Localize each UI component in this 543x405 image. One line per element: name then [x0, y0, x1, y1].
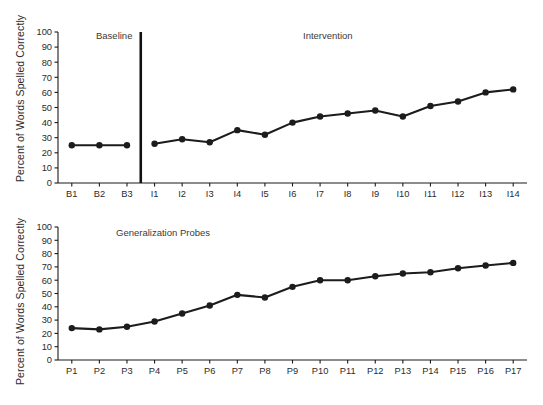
x-tick-label: I12: [452, 189, 465, 199]
x-tick-label: I7: [316, 189, 324, 199]
x-tick-label: I9: [371, 189, 379, 199]
generalization-phase-label: Generalization Probes: [116, 227, 210, 238]
x-tick-label: P7: [232, 366, 243, 376]
data-point: [510, 260, 516, 266]
data-point: [482, 89, 488, 95]
x-tick-label: P5: [176, 366, 187, 376]
x-tick-label: I6: [289, 189, 297, 199]
x-tick-label: I11: [424, 189, 436, 199]
y-tick-label: 0: [47, 178, 52, 188]
y-tick-label: 10: [42, 163, 52, 173]
data-point: [69, 142, 75, 148]
intervention-phase-label: Intervention: [303, 30, 353, 41]
x-tick-label: I8: [344, 189, 352, 199]
plot-area-top: 0102030405060708090100B1B2B3I1I2I3I4I5I6…: [0, 0, 543, 203]
plot-area-bottom: 0102030405060708090100P1P2P3P4P5P6P7P8P9…: [0, 200, 543, 405]
x-tick-label: I3: [206, 189, 214, 199]
y-tick-label: 60: [42, 276, 52, 286]
y-tick-label: 20: [42, 148, 52, 158]
y-axis-title-bottom: Percent of Words Spelled Correctly: [14, 218, 26, 385]
x-tick-label: B1: [66, 189, 77, 199]
x-tick-label: B2: [94, 189, 105, 199]
baseline-phase-label: Baseline: [96, 30, 132, 41]
x-tick-label: P8: [259, 366, 270, 376]
x-tick-label: P15: [450, 366, 467, 376]
x-tick-label: I2: [178, 189, 186, 199]
chart-panel-top: Percent of Words Spelled Correctly Basel…: [0, 0, 543, 203]
y-tick-label: 0: [47, 355, 52, 365]
y-tick-label: 80: [42, 58, 52, 68]
y-tick-label: 30: [42, 315, 52, 325]
data-point: [151, 141, 157, 147]
y-tick-label: 80: [42, 249, 52, 259]
data-point: [400, 113, 406, 119]
data-point: [372, 273, 378, 279]
y-tick-label: 10: [42, 342, 52, 352]
data-point: [234, 292, 240, 298]
data-point: [124, 324, 130, 330]
x-tick-label: B3: [121, 189, 132, 199]
y-tick-label: 70: [42, 73, 52, 83]
data-point: [289, 119, 295, 125]
data-point: [455, 98, 461, 104]
data-point: [179, 310, 185, 316]
x-tick-label: P4: [149, 366, 160, 376]
figure-root: Percent of Words Spelled Correctly Basel…: [0, 0, 543, 405]
y-tick-label: 100: [36, 222, 52, 232]
y-tick-label: 100: [36, 27, 52, 37]
series-line-generalization-probes: [72, 263, 513, 330]
y-tick-label: 60: [42, 88, 52, 98]
x-tick-label: P1: [66, 366, 77, 376]
y-tick-label: 40: [42, 118, 52, 128]
y-tick-label: 30: [42, 133, 52, 143]
x-tick-label: I5: [261, 189, 269, 199]
data-point: [400, 270, 406, 276]
y-tick-label: 70: [42, 262, 52, 272]
x-tick-label: P14: [422, 366, 439, 376]
data-point: [427, 269, 433, 275]
y-tick-label: 90: [42, 42, 52, 52]
x-tick-label: P3: [121, 366, 132, 376]
data-point: [317, 277, 323, 283]
y-tick-label: 40: [42, 302, 52, 312]
data-point: [262, 131, 268, 137]
data-point: [69, 325, 75, 331]
x-tick-label: I4: [233, 189, 241, 199]
data-point: [151, 318, 157, 324]
series-line-intervention: [155, 89, 514, 143]
data-point: [262, 294, 268, 300]
data-point: [234, 127, 240, 133]
data-point: [510, 86, 516, 92]
data-point: [427, 103, 433, 109]
x-tick-label: I10: [396, 189, 409, 199]
x-tick-label: P6: [204, 366, 215, 376]
data-point: [344, 277, 350, 283]
data-point: [455, 265, 461, 271]
x-tick-label: P16: [477, 366, 494, 376]
data-point: [372, 107, 378, 113]
y-tick-label: 50: [42, 103, 52, 113]
data-point: [124, 142, 130, 148]
x-tick-label: P2: [94, 366, 105, 376]
x-tick-label: P9: [287, 366, 298, 376]
x-tick-label: P12: [367, 366, 384, 376]
x-tick-label: I1: [151, 189, 159, 199]
x-tick-label: I13: [479, 189, 492, 199]
x-tick-label: P17: [505, 366, 522, 376]
data-point: [482, 262, 488, 268]
x-tick-label: P10: [312, 366, 329, 376]
y-axis-title-top: Percent of Words Spelled Correctly: [14, 15, 26, 182]
data-point: [289, 284, 295, 290]
y-tick-label: 90: [42, 236, 52, 246]
x-tick-label: P11: [340, 366, 356, 376]
data-point: [344, 110, 350, 116]
data-point: [317, 113, 323, 119]
data-point: [96, 326, 102, 332]
data-point: [207, 139, 213, 145]
data-point: [96, 142, 102, 148]
x-tick-label: I14: [507, 189, 520, 199]
y-tick-label: 50: [42, 289, 52, 299]
x-tick-label: P13: [395, 366, 412, 376]
y-tick-label: 20: [42, 329, 52, 339]
data-point: [207, 302, 213, 308]
